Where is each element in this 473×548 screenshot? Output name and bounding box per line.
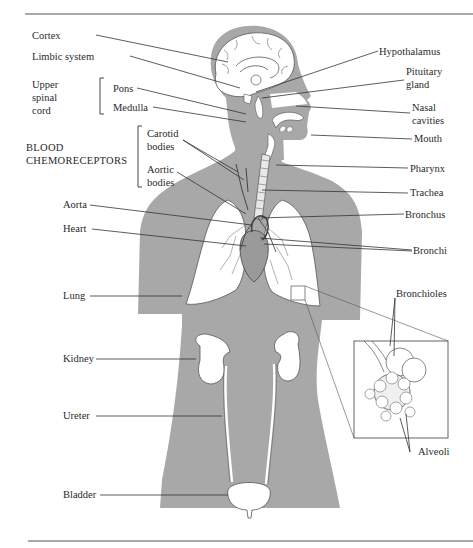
label-bladder: Bladder xyxy=(63,488,96,501)
label-ureter: Ureter xyxy=(63,409,90,422)
label-kidney: Kidney xyxy=(63,352,94,365)
label-limbic-system: Limbic system xyxy=(32,50,94,63)
upper-spinal-cord-bracket xyxy=(100,78,104,114)
label-bronchioles: Bronchioles xyxy=(396,287,447,300)
label-pons: Pons xyxy=(113,82,133,95)
label-upper-spinal-cord: Upper spinal cord xyxy=(32,78,58,117)
anatomy-illustration xyxy=(0,0,473,548)
bladder xyxy=(228,483,271,519)
label-pharynx: Pharynx xyxy=(410,162,445,175)
label-nasal-cavities: Nasal cavities xyxy=(412,101,444,127)
blood-chemoreceptors-bracket xyxy=(138,126,142,187)
label-heart: Heart xyxy=(63,222,86,235)
label-cortex: Cortex xyxy=(32,29,61,42)
label-lung: Lung xyxy=(63,289,85,302)
anatomy-diagram: Cortex Limbic system Upper spinal cord P… xyxy=(0,0,473,548)
label-aortic-bodies: Aortic bodies xyxy=(147,163,174,189)
label-hypothalamus: Hypothalamus xyxy=(379,45,440,58)
label-mouth: Mouth xyxy=(414,132,442,145)
label-bronchus: Bronchus xyxy=(405,208,445,221)
label-blood-chemoreceptors: BLOOD CHEMORECEPTORS xyxy=(26,141,127,167)
label-medulla: Medulla xyxy=(113,101,148,114)
label-carotid-bodies: Carotid bodies xyxy=(147,127,179,153)
label-trachea: Trachea xyxy=(410,186,443,199)
label-bronchi: Bronchi xyxy=(413,244,447,257)
label-aorta: Aorta xyxy=(63,198,87,211)
label-pituitary-gland: Pituitary gland xyxy=(406,65,442,91)
label-alveoli: Alveoli xyxy=(418,445,450,458)
